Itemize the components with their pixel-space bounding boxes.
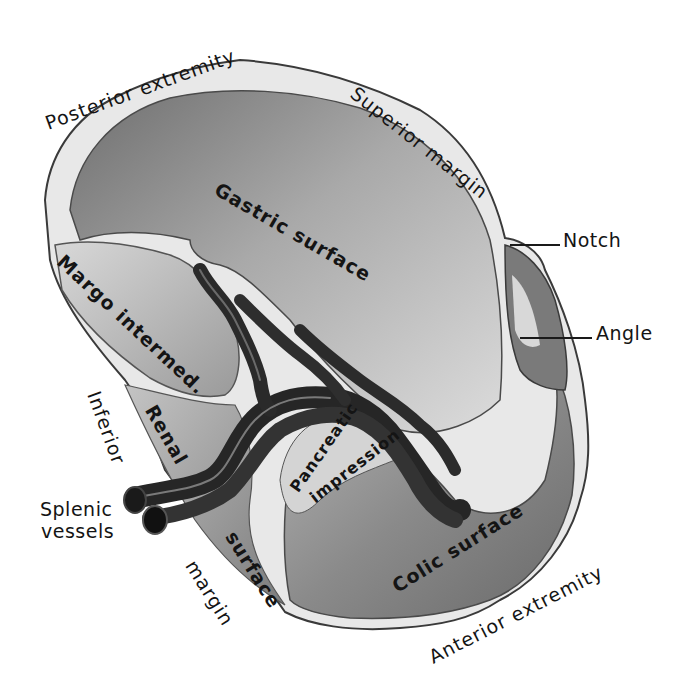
label-splenic-vessels-line2: vessels bbox=[41, 520, 114, 542]
label-angle: Angle bbox=[596, 322, 653, 344]
splenic-artery-end bbox=[124, 487, 146, 513]
label-notch: Notch bbox=[563, 229, 621, 251]
splenic-vein-end bbox=[143, 506, 167, 534]
leader-line-notch bbox=[510, 244, 560, 246]
leader-line-angle bbox=[520, 337, 592, 339]
label-splenic-vessels-line1: Splenic bbox=[40, 498, 112, 520]
